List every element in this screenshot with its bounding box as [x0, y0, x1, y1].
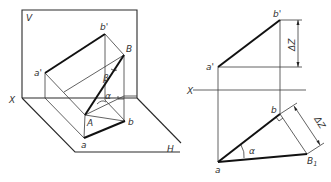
h-plane-front-edge	[22, 98, 180, 152]
B1-extension-side	[307, 143, 324, 154]
label-B: B	[126, 44, 132, 54]
label-b-right: b	[271, 105, 277, 115]
A-to-a-vertical	[84, 115, 85, 138]
dz-arrow-down	[297, 62, 300, 67]
right-orthographic-view: X a' b' b a α B1 ΔZ ΔZ	[186, 9, 328, 175]
label-dz-top: ΔZ	[287, 38, 297, 52]
segment-a-prime-b-prime-right	[218, 20, 280, 67]
label-a-prime-right: a'	[206, 62, 214, 72]
alpha-arc-left	[97, 101, 106, 104]
v-plane-frame	[22, 10, 137, 98]
label-a-right: a	[215, 165, 221, 175]
b-extension-side	[280, 103, 297, 114]
segment-A-B	[85, 55, 124, 115]
label-b-left: b	[128, 117, 134, 127]
label-a-prime-left: a'	[34, 68, 42, 78]
label-beta: β	[102, 73, 109, 83]
label-X-right: X	[186, 86, 194, 96]
left-pictorial-view: V X H a' b' B A a b β α	[8, 10, 181, 154]
dz-arrow-up	[297, 20, 300, 25]
segment-a-prime-b-prime	[45, 34, 105, 73]
label-b-prime-right: b'	[273, 9, 281, 19]
label-A: A	[86, 118, 93, 128]
a-proj-to-a	[45, 98, 84, 138]
alpha-arc-right	[241, 145, 244, 158]
label-B1: B1	[307, 156, 317, 168]
label-X-left: X	[8, 95, 16, 105]
label-alpha-right: α	[249, 146, 255, 156]
label-b-prime-left: b'	[100, 22, 108, 32]
label-H: H	[167, 144, 174, 154]
a-prime-to-A	[45, 73, 85, 115]
label-a-left: a	[81, 140, 87, 150]
label-dz-side: ΔZ	[312, 114, 328, 131]
projection-diagram: V X H a' b' B A a b β α	[0, 0, 331, 182]
segment-a-B1-true-length	[218, 154, 307, 162]
h-plane-right-edge	[137, 98, 181, 143]
A-parallel-to-B	[64, 55, 124, 92]
label-alpha-left: α	[105, 91, 111, 101]
b-prime-to-B	[105, 34, 124, 55]
b-proj-to-b	[105, 100, 125, 121]
label-V: V	[26, 13, 33, 23]
